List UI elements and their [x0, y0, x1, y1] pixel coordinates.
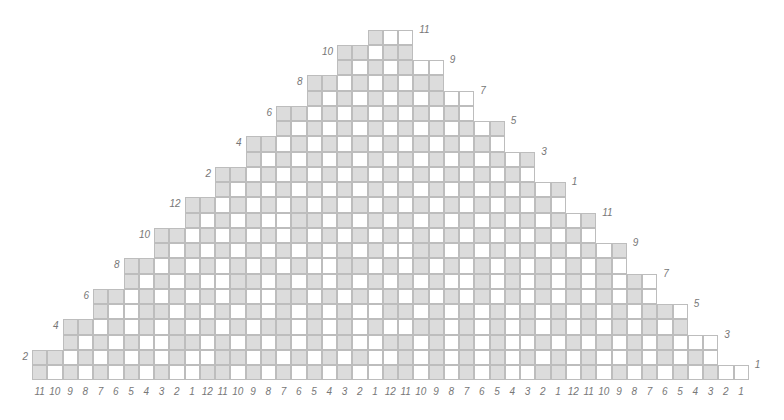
grid-cell [276, 243, 291, 258]
grid-cell [520, 365, 535, 380]
grid-cell [429, 91, 444, 106]
grid-cell [490, 319, 505, 334]
grid-cell [230, 365, 245, 380]
grid-cell [230, 289, 245, 304]
grid-cell [444, 243, 459, 258]
grid-cell [215, 365, 230, 380]
column-label: 10 [47, 386, 62, 398]
column-label: 10 [413, 386, 428, 398]
grid-cell [169, 243, 184, 258]
grid-cell [383, 274, 398, 289]
grid-cell [230, 350, 245, 365]
grid-cell [261, 167, 276, 182]
grid-cell [520, 182, 535, 197]
grid-cell [566, 350, 581, 365]
grid-cell [413, 106, 428, 121]
column-label: 11 [581, 386, 596, 398]
grid-cell [596, 289, 611, 304]
grid-cell [459, 182, 474, 197]
grid-cell [261, 319, 276, 334]
grid-cell [322, 197, 337, 212]
grid-cell [398, 106, 413, 121]
grid-cell [566, 319, 581, 334]
grid-cell [444, 274, 459, 289]
grid-cell [505, 274, 520, 289]
grid-cell [383, 45, 398, 60]
grid-cell [276, 121, 291, 136]
grid-cell [444, 121, 459, 136]
grid-cell [413, 365, 428, 380]
grid-cell [596, 243, 611, 258]
grid-cell [459, 152, 474, 167]
grid-cell [215, 258, 230, 273]
row-label-right: 9 [450, 54, 456, 66]
grid-cell [307, 197, 322, 212]
grid-cell [215, 304, 230, 319]
grid-cell [535, 274, 550, 289]
grid-cell [276, 289, 291, 304]
grid-cell [108, 350, 123, 365]
grid-cell [215, 350, 230, 365]
grid-cell [444, 335, 459, 350]
grid-cell [230, 304, 245, 319]
row-label-right: 3 [541, 146, 547, 158]
grid-cell [383, 228, 398, 243]
grid-cell [505, 335, 520, 350]
grid-cell [490, 228, 505, 243]
grid-cell [291, 182, 306, 197]
grid-cell [154, 365, 169, 380]
row-label-left: 6 [248, 107, 272, 119]
grid-cell [429, 365, 444, 380]
grid-cell [368, 152, 383, 167]
grid-cell [429, 167, 444, 182]
row-label-right: 11 [419, 24, 429, 36]
grid-cell [413, 289, 428, 304]
grid-cell [352, 350, 367, 365]
grid-cell [535, 350, 550, 365]
grid-cell [291, 289, 306, 304]
grid-cell [642, 289, 657, 304]
grid-cell [474, 274, 489, 289]
grid-cell [657, 304, 672, 319]
grid-cell [581, 274, 596, 289]
column-label: 1 [368, 386, 383, 398]
grid-cell [474, 152, 489, 167]
column-label: 6 [474, 386, 489, 398]
column-label: 3 [703, 386, 718, 398]
grid-cell [78, 350, 93, 365]
grid-cell [337, 243, 352, 258]
grid-cell [368, 75, 383, 90]
grid-cell [368, 274, 383, 289]
grid-cell [642, 319, 657, 334]
grid-cell [505, 228, 520, 243]
grid-cell [444, 182, 459, 197]
grid-cell [246, 213, 261, 228]
grid-cell [612, 304, 627, 319]
column-label: 10 [230, 386, 245, 398]
column-label: 7 [276, 386, 291, 398]
grid-cell [93, 289, 108, 304]
grid-cell [322, 91, 337, 106]
grid-cell [307, 91, 322, 106]
grid-cell [444, 365, 459, 380]
grid-cell [261, 136, 276, 151]
grid-cell [474, 197, 489, 212]
grid-cell [352, 258, 367, 273]
grid-cell [444, 258, 459, 273]
grid-cell [307, 274, 322, 289]
grid-cell [612, 258, 627, 273]
grid-cell [383, 152, 398, 167]
grid-cell [337, 365, 352, 380]
grid-cell [520, 228, 535, 243]
grid-cell [490, 182, 505, 197]
grid-cell [139, 289, 154, 304]
grid-cell [612, 289, 627, 304]
grid-cell [185, 319, 200, 334]
grid-cell [535, 335, 550, 350]
grid-cell [413, 335, 428, 350]
grid-cell [535, 304, 550, 319]
grid-cell [276, 152, 291, 167]
grid-cell [535, 213, 550, 228]
grid-cell [154, 274, 169, 289]
grid-cell [581, 350, 596, 365]
